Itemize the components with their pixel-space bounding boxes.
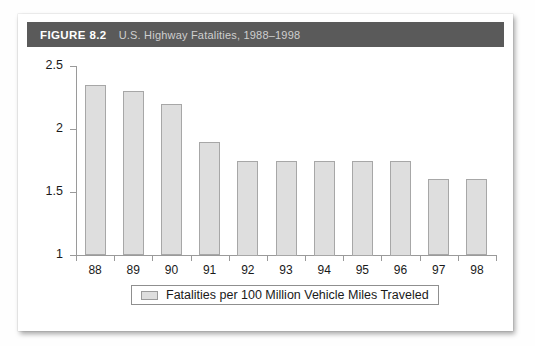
x-tick-label: 94 bbox=[308, 263, 340, 277]
bar-93 bbox=[276, 161, 297, 256]
y-tick-label: 2 bbox=[27, 121, 63, 135]
x-tick-mark bbox=[229, 255, 230, 261]
x-tick-mark bbox=[381, 255, 382, 261]
y-tick-label: 1.5 bbox=[27, 184, 63, 198]
x-tick-mark bbox=[152, 255, 153, 261]
screenshot-stage: FIGURE 8.2 U.S. Highway Fatalities, 1988… bbox=[0, 0, 535, 346]
x-tick-label: 97 bbox=[423, 263, 455, 277]
figure-header-bar: FIGURE 8.2 U.S. Highway Fatalities, 1988… bbox=[27, 22, 504, 47]
bar-91 bbox=[199, 142, 220, 255]
y-tick-mark bbox=[70, 192, 77, 193]
x-tick-label: 89 bbox=[117, 263, 149, 277]
bar-89 bbox=[123, 91, 144, 255]
y-axis-line bbox=[76, 66, 77, 256]
x-tick-mark bbox=[114, 255, 115, 261]
bar-90 bbox=[161, 104, 182, 255]
bar-92 bbox=[237, 161, 258, 256]
x-tick-mark bbox=[305, 255, 306, 261]
x-tick-mark bbox=[343, 255, 344, 261]
bar-95 bbox=[352, 161, 373, 256]
x-tick-label: 93 bbox=[270, 263, 302, 277]
chart-axes: 11.522.5 8889909192939495969798 bbox=[27, 54, 504, 294]
x-tick-label: 90 bbox=[155, 263, 187, 277]
y-tick-label: 1 bbox=[27, 247, 63, 261]
x-tick-mark bbox=[458, 255, 459, 261]
y-tick-label: 2.5 bbox=[27, 58, 63, 72]
y-tick-mark bbox=[70, 129, 77, 130]
figure-card: FIGURE 8.2 U.S. Highway Fatalities, 1988… bbox=[18, 14, 513, 331]
x-tick-mark bbox=[496, 255, 497, 261]
x-tick-label: 98 bbox=[461, 263, 493, 277]
figure-title: U.S. Highway Fatalities, 1988–1998 bbox=[119, 29, 301, 41]
y-tick-mark bbox=[70, 66, 77, 67]
x-tick-mark bbox=[267, 255, 268, 261]
chart-plot-area: 11.522.5 8889909192939495969798 bbox=[27, 54, 504, 294]
x-tick-label: 92 bbox=[232, 263, 264, 277]
chart-legend: Fatalities per 100 Million Vehicle Miles… bbox=[131, 285, 439, 305]
legend-swatch-icon bbox=[141, 291, 158, 300]
x-tick-mark bbox=[420, 255, 421, 261]
x-tick-mark bbox=[76, 255, 77, 261]
x-tick-label: 88 bbox=[79, 263, 111, 277]
figure-number-label: FIGURE 8.2 bbox=[40, 29, 107, 41]
legend-label: Fatalities per 100 Million Vehicle Miles… bbox=[166, 288, 429, 302]
x-tick-label: 95 bbox=[346, 263, 378, 277]
x-tick-label: 91 bbox=[194, 263, 226, 277]
bar-88 bbox=[85, 85, 106, 255]
bar-98 bbox=[466, 179, 487, 255]
bar-94 bbox=[314, 161, 335, 256]
bar-96 bbox=[390, 161, 411, 256]
bar-97 bbox=[428, 179, 449, 255]
x-tick-mark bbox=[191, 255, 192, 261]
x-tick-label: 96 bbox=[385, 263, 417, 277]
